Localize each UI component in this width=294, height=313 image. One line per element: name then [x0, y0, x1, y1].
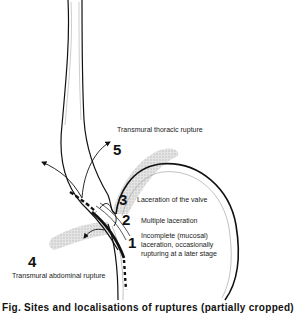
figure-caption-cropped: Fig. Sites and localisations of ruptures…: [2, 302, 294, 313]
esophagus-right-wall-inner: [79, 2, 81, 120]
esophagus-left-wall: [61, 0, 118, 250]
label-number-4: 4: [28, 254, 36, 269]
label-number-1: 1: [128, 235, 136, 250]
laceration-line-dotted: [124, 260, 126, 290]
label-laceration-valve: Laceration of the valve: [137, 196, 207, 204]
label-thoracic-rupture: Transmural thoracic rupture: [117, 126, 203, 134]
label-number-2: 2: [122, 212, 130, 227]
label-incomplete-1: Incomplete (mucosal): [141, 232, 208, 240]
label-incomplete-2: laceration, occasionally: [141, 241, 213, 249]
label-number-5: 5: [113, 142, 121, 157]
label-number-3: 3: [119, 192, 127, 207]
arrow-left-rupture: [42, 162, 82, 198]
label-abdominal-rupture: Transmural abdominal rupture: [12, 272, 106, 280]
esophagus-right-wall: [82, 0, 116, 214]
label-multiple-laceration: Multiple laceration: [141, 217, 197, 225]
label-incomplete-3: rupturing at a later stage: [141, 250, 217, 258]
laceration-line-dashed: [70, 192, 96, 212]
